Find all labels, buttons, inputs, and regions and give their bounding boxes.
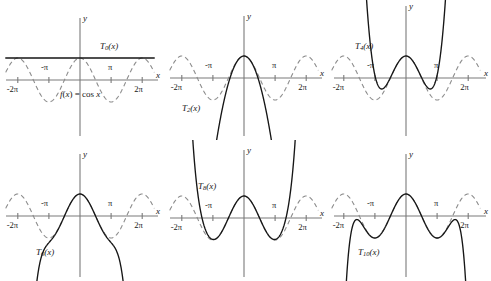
y-axis-label: y [83, 14, 87, 23]
curve-label-t8: T8(x) [198, 182, 216, 192]
plot-t6 [0, 140, 164, 281]
x-axis-label: x [484, 69, 488, 78]
panel-t4: T4(x) -2π-ππ2πxy [328, 0, 491, 140]
x-tick-label: -π [205, 201, 212, 210]
x-tick-label: π [272, 61, 276, 70]
x-tick-label: -2π [333, 221, 344, 230]
plot-t8 [164, 140, 328, 281]
y-axis-label: y [247, 12, 251, 21]
taylor-polynomials-figure: T0(x) f(x) = cos x -2π-ππ2πxy T2(x) -2π-… [0, 0, 491, 281]
x-tick-label: 2π [460, 221, 469, 230]
x-tick-label: -π [367, 61, 374, 70]
panel-t10: T10(x) -2π-ππ2πxy [328, 140, 491, 280]
y-axis-label: y [409, 2, 413, 11]
panel-t6: T6(x) -2π-ππ2πxy [0, 140, 164, 280]
x-tick-label: π [272, 201, 276, 210]
curve-label-t0: T0(x) [100, 42, 118, 52]
x-axis-label: x [156, 207, 160, 216]
x-tick-label: -2π [333, 83, 344, 92]
x-tick-label: -π [205, 61, 212, 70]
x-axis-label: x [484, 207, 488, 216]
curve-label-t10: T10(x) [358, 248, 380, 258]
plot-t0 [0, 0, 164, 140]
function-label: f(x) = cos x [60, 90, 100, 99]
x-axis-label: x [156, 71, 160, 80]
panel-t0: T0(x) f(x) = cos x -2π-ππ2πxy [0, 0, 164, 140]
x-tick-label: -π [41, 199, 48, 208]
panel-t8: T8(x) -2π-ππ2πxy [164, 140, 328, 280]
x-tick-label: 2π [298, 223, 307, 232]
curve-label-t4: T4(x) [355, 42, 373, 52]
x-tick-label: 2π [134, 85, 143, 94]
panel-t2: T2(x) -2π-ππ2πxy [164, 0, 328, 140]
x-tick-label: π [434, 199, 438, 208]
y-axis-label: y [409, 150, 413, 159]
x-tick-label: -2π [171, 223, 182, 232]
x-tick-label: π [434, 61, 438, 70]
plot-t10 [328, 140, 491, 281]
y-axis-label: y [247, 146, 251, 155]
plot-t4 [328, 0, 491, 140]
curve-label-t6: T6(x) [36, 248, 54, 258]
x-tick-label: -2π [7, 85, 18, 94]
x-tick-label: π [108, 63, 112, 72]
y-axis-label: y [83, 150, 87, 159]
x-tick-label: π [108, 199, 112, 208]
x-axis-label: x [320, 69, 324, 78]
x-tick-label: -2π [171, 83, 182, 92]
curve-label-t2: T2(x) [182, 104, 200, 114]
x-tick-label: -π [367, 199, 374, 208]
x-tick-label: -π [41, 63, 48, 72]
x-axis-label: x [320, 209, 324, 218]
x-tick-label: 2π [298, 83, 307, 92]
x-tick-label: -2π [7, 221, 18, 230]
plot-t2 [164, 0, 328, 140]
x-tick-label: 2π [134, 221, 143, 230]
x-tick-label: 2π [460, 83, 469, 92]
